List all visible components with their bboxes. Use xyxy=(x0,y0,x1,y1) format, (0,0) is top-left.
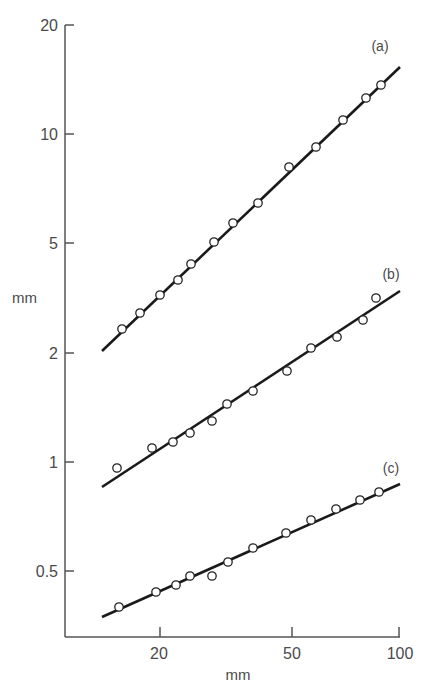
x-axis-title: mm xyxy=(226,666,251,683)
x-tick-label-100: 100 xyxy=(387,645,414,662)
y-axis: 20 10 5 2 1 0.5 mm xyxy=(12,17,74,637)
series-c: (c) xyxy=(102,460,400,617)
y-tick-label-0.5: 0.5 xyxy=(36,563,58,580)
markers-b xyxy=(113,294,380,472)
y-tick-label-20: 20 xyxy=(40,17,58,34)
y-axis-title: mm xyxy=(12,289,37,306)
x-tick-label-50: 50 xyxy=(283,645,301,662)
y-tick-label-5: 5 xyxy=(49,235,58,252)
x-axis: 20 50 100 mm xyxy=(65,627,413,683)
series-a: (a) xyxy=(102,38,400,351)
series-b: (b) xyxy=(102,266,400,487)
fit-line-a xyxy=(102,67,400,351)
log-log-chart: 20 10 5 2 1 0.5 mm 20 50 100 mm (a) xyxy=(0,0,423,692)
series-label-a: (a) xyxy=(371,38,388,54)
series-label-c: (c) xyxy=(383,460,399,476)
y-tick-label-2: 2 xyxy=(49,345,58,362)
x-tick-label-20: 20 xyxy=(150,645,168,662)
markers-c xyxy=(115,488,383,611)
series-label-b: (b) xyxy=(382,266,399,282)
y-tick-label-1: 1 xyxy=(49,454,58,471)
y-tick-label-10: 10 xyxy=(40,126,58,143)
